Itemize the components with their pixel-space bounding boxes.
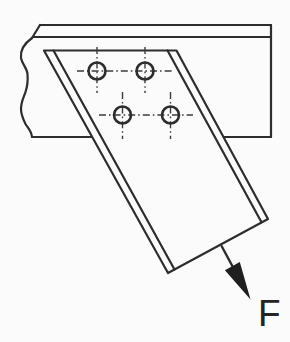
force-arrow <box>222 246 251 299</box>
bracket-plate-face <box>44 51 268 274</box>
bracket-plate <box>44 51 268 274</box>
diagram-canvas: F <box>0 0 290 342</box>
force-arrowhead <box>225 262 251 299</box>
beam-break-line <box>21 38 32 137</box>
bracket-diagram: F <box>0 0 290 342</box>
force-label: F <box>258 293 281 334</box>
